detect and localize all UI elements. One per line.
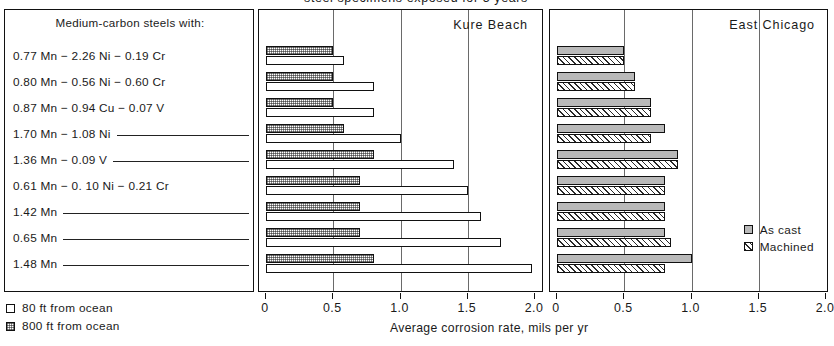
category-label-row: 1.42 Mn (13, 199, 255, 225)
bar-group (550, 43, 827, 69)
bar (557, 254, 692, 263)
axis-tick-label: 2.0 (525, 301, 543, 315)
axis-tick-label: 1.5 (749, 301, 767, 315)
legend-item: 80 ft from ocean (6, 299, 120, 317)
category-label-text: 0.77 Mn − 2.26 Ni − 0.19 Cr (13, 49, 165, 63)
legend-item-label: Machined (760, 240, 814, 254)
figure-title: steel specimens exposed for 5 years (0, 0, 832, 5)
bar (266, 124, 344, 133)
category-label-row: 0.61 Mn − 0. 10 Ni − 0.21 Cr (13, 173, 255, 199)
axis-tick (623, 293, 624, 299)
bar (557, 160, 678, 169)
bar (266, 212, 481, 221)
label-leader-line (63, 239, 249, 240)
bar (266, 82, 374, 91)
x-axis-east-chicago: 00.51.01.52.0 (549, 293, 832, 323)
bar (266, 228, 360, 237)
bar (557, 202, 665, 211)
bar-group (259, 121, 542, 147)
axis-tick-label: 0.5 (614, 301, 632, 315)
category-label-text: 0.87 Mn − 0.94 Cu − 0.07 V (13, 101, 164, 115)
bar (266, 264, 532, 273)
x-axis-caption: Average corrosion rate, mils per yr (390, 321, 588, 335)
bar (557, 72, 635, 81)
axis-tick-label: 1.0 (390, 301, 408, 315)
bar-group (259, 173, 542, 199)
legend-distance-from-ocean: 80 ft from ocean800 ft from ocean (6, 299, 120, 335)
bar-group (550, 173, 827, 199)
bar (557, 150, 678, 159)
axis-tick-label: 0.5 (323, 301, 341, 315)
axis-tick (400, 293, 401, 299)
category-label-text: 0.61 Mn − 0. 10 Ni − 0.21 Cr (13, 179, 169, 193)
legend-item: Machined (744, 238, 814, 255)
bar (266, 150, 374, 159)
bar (266, 46, 333, 55)
category-label-text: 0.65 Mn (13, 231, 57, 245)
bar-group (259, 225, 542, 251)
bar-group (259, 43, 542, 69)
hatched-square-icon (744, 242, 753, 251)
category-label-row: 0.77 Mn − 2.26 Ni − 0.19 Cr (13, 43, 255, 69)
axis-tick-label: 1.0 (681, 301, 699, 315)
bar (557, 108, 651, 117)
bar (266, 98, 333, 107)
bar (266, 160, 454, 169)
axis-tick (825, 293, 826, 299)
axis-tick-label: 2.0 (816, 301, 834, 315)
axis-tick (758, 293, 759, 299)
category-label-text: 1.42 Mn (13, 205, 57, 219)
label-leader-line (113, 161, 249, 162)
bar (557, 56, 624, 65)
axis-tick (467, 293, 468, 299)
panel-title-kure-beach: Kure Beach (453, 18, 528, 32)
bar (557, 134, 651, 143)
label-leader-line (63, 265, 249, 266)
bar (266, 72, 333, 81)
bar-group (550, 147, 827, 173)
bar-group (550, 69, 827, 95)
legend-item-label: 80 ft from ocean (22, 301, 113, 315)
bar (266, 186, 468, 195)
axis-tick-label: 0 (261, 301, 268, 315)
category-label-row: 0.87 Mn − 0.94 Cu − 0.07 V (13, 95, 255, 121)
category-label-row: 1.48 Mn (13, 251, 255, 277)
legend-item: As cast (744, 221, 814, 238)
x-axis-kure-beach: 00.51.01.52.0 (258, 293, 541, 323)
bar (266, 134, 401, 143)
bar (557, 186, 665, 195)
category-label-text: 1.48 Mn (13, 257, 57, 271)
axis-tick (265, 293, 266, 299)
bar (557, 228, 665, 237)
legend-east-chicago: As castMachined (744, 221, 814, 255)
bar (266, 238, 501, 247)
bar (557, 264, 665, 273)
legend-item-label: 800 ft from ocean (22, 319, 120, 333)
bar-group (259, 147, 542, 173)
axis-tick (332, 293, 333, 299)
bar (557, 82, 635, 91)
bar (557, 238, 671, 247)
bar (266, 202, 360, 211)
bar (557, 176, 665, 185)
category-label-row: 0.65 Mn (13, 225, 255, 251)
axis-tick (556, 293, 557, 299)
category-label-text: 1.70 Mn − 1.08 Ni (13, 127, 111, 141)
axis-tick-label: 1.5 (458, 301, 476, 315)
bar (557, 98, 651, 107)
category-label-row: 0.80 Mn − 0.56 Ni − 0.60 Cr (13, 69, 255, 95)
bar (557, 212, 665, 221)
bar (557, 124, 665, 133)
bar (266, 108, 374, 117)
panel-kure-beach: Kure Beach (258, 9, 543, 292)
bar-group (259, 95, 542, 121)
legend-item-label: As cast (760, 223, 801, 237)
bar-group (550, 121, 827, 147)
bar-group (259, 199, 542, 225)
bar-group (259, 251, 542, 277)
bar (266, 176, 360, 185)
bar (266, 56, 344, 65)
category-label-row: 1.36 Mn − 0.09 V (13, 147, 255, 173)
label-leader-line (117, 135, 249, 136)
axis-tick (691, 293, 692, 299)
